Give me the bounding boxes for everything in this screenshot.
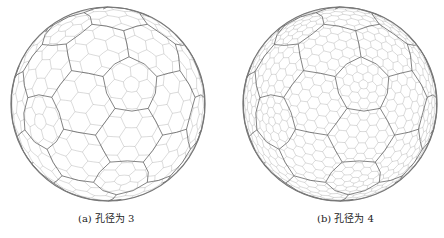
geodesic-sphere-aperture-4 <box>222 0 444 210</box>
caption-b: (b) 孔径为 4 <box>317 210 374 225</box>
geodesic-sphere-aperture-3 <box>0 0 222 210</box>
panel-a: (a) 孔径为 3 <box>0 0 222 238</box>
caption-a: (a) 孔径为 3 <box>78 210 134 225</box>
panel-b: (b) 孔径为 4 <box>222 0 444 238</box>
